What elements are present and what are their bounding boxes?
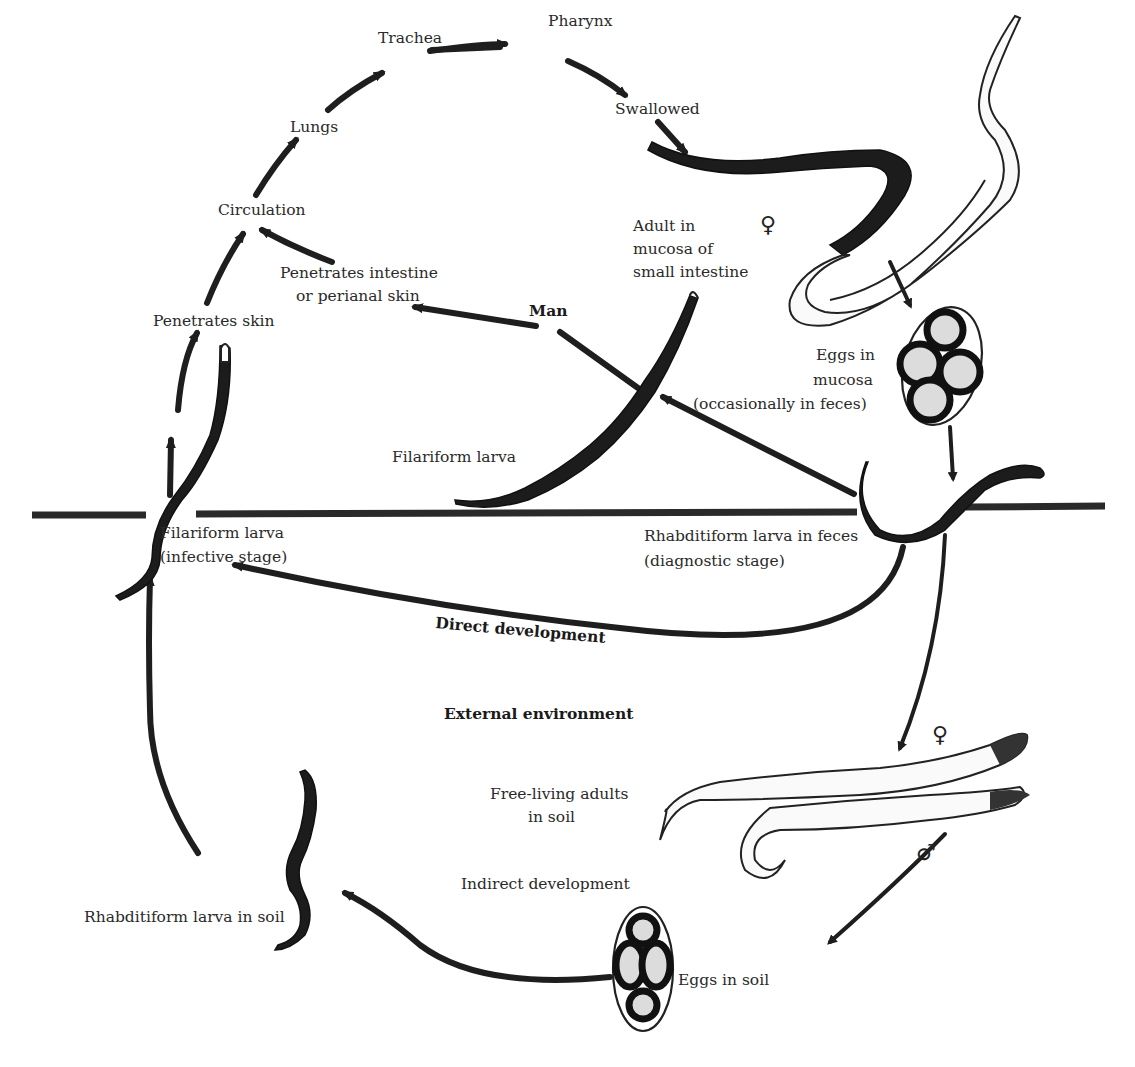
- label-penetrates-skin: Penetrates skin: [153, 312, 275, 330]
- label-eggs-soil: Eggs in soil: [678, 971, 769, 989]
- label-rhabditiform-soil: Rhabditiform larva in soil: [84, 908, 285, 926]
- zone-label-man: Man: [529, 301, 567, 320]
- label-lungs: Lungs: [290, 118, 338, 136]
- female-symbol-adult: ♀: [760, 212, 776, 237]
- label-penetrates-intestine-1: Penetrates intestine: [280, 264, 438, 282]
- arrow-feces-to-free-living: [900, 535, 945, 748]
- arrow-skin-to-circulation: [207, 234, 243, 303]
- arrow-larva-to-skin: [178, 333, 197, 410]
- label-free-living-1: Free-living adults: [490, 785, 629, 803]
- arrow-intestine-to-circulation: [262, 230, 332, 262]
- arrow-direct-development: [235, 547, 903, 635]
- arrow-infective-up: [170, 440, 171, 495]
- label-rhabditiform-feces-2: (diagnostic stage): [644, 552, 785, 570]
- egg-soil: [613, 907, 673, 1031]
- label-pharynx: Pharynx: [548, 12, 613, 30]
- label-filariform-infective-1: Filariform larva: [160, 524, 284, 542]
- arrow-circulation-to-lungs: [256, 140, 296, 195]
- label-eggs-mucosa-1: Eggs in: [816, 346, 875, 364]
- label-penetrates-intestine-2: or perianal skin: [296, 287, 420, 305]
- egg-mucosa: [890, 298, 994, 434]
- label-rhabditiform-feces-1: Rhabditiform larva in feces: [644, 527, 858, 545]
- label-eggs-mucosa-3: (occasionally in feces): [693, 395, 867, 413]
- male-symbol-free: ♂: [916, 840, 936, 865]
- label-free-living-2: in soil: [528, 808, 575, 826]
- arrow-eggs-to-rhabditiform: [950, 427, 953, 478]
- arrow-autoinfection-2: [415, 307, 536, 326]
- filariform-larva-host: [455, 292, 698, 507]
- label-swallowed: Swallowed: [615, 100, 700, 118]
- life-cycle-diagram: ♀ ♀ ♂ Pharynx: [0, 0, 1135, 1067]
- arrow-pharynx-to-swallowed: [568, 61, 625, 95]
- label-eggs-mucosa-2: mucosa: [813, 371, 873, 389]
- female-symbol-free: ♀: [932, 722, 948, 747]
- arrow-soil-to-infective: [149, 578, 198, 853]
- label-adult-3: small intestine: [633, 263, 748, 281]
- label-filariform-infective-2: (infective stage): [160, 548, 287, 566]
- label-trachea: Trachea: [378, 29, 442, 47]
- free-living-male: [741, 787, 1030, 878]
- zone-label-external-environment: External environment: [444, 704, 634, 723]
- arrow-lungs-to-trachea: [328, 73, 382, 110]
- label-indirect-development: Indirect development: [461, 875, 630, 893]
- label-adult-2: mucosa of: [633, 240, 714, 258]
- arrow-eggs-to-rhabditiform-soil: [345, 893, 610, 980]
- label-filariform-larva: Filariform larva: [392, 448, 516, 466]
- ground-line: [32, 506, 1105, 515]
- label-circulation: Circulation: [218, 201, 306, 219]
- label-adult-1: Adult in: [632, 217, 695, 235]
